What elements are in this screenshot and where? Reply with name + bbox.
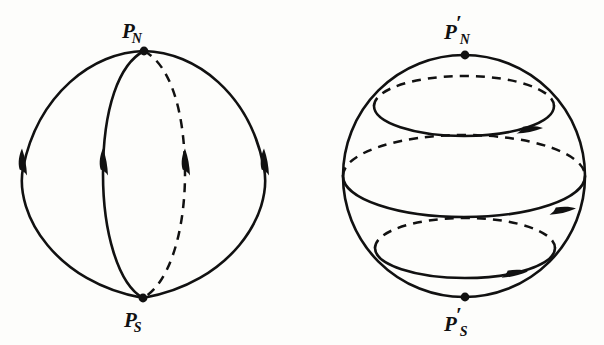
right-sphere-latitude-north-back [374,76,554,106]
figure-container: PN PS P′N P′S [0,0,604,345]
label-south-pole-left: PS [124,301,142,335]
label-north-pole-right-base: P [444,20,457,44]
label-south-pole-right: P′S [444,305,468,339]
left-sphere-inner-meridian-back [143,51,185,298]
right-sphere-group [343,51,585,302]
right-sphere-arrow-equator [550,207,577,215]
label-north-pole-left: PN [122,12,142,46]
label-north-pole-right: P′N [444,13,470,47]
right-sphere-latitude-equator-front [343,176,585,217]
right-sphere-latitude-south-back [375,218,555,248]
left-sphere-outline-right-meridian [143,51,265,298]
label-south-pole-right-subscript: S [460,324,468,339]
label-north-pole-right-subscript: N [460,32,470,47]
right-sphere-latitude-south-front [375,248,555,278]
right-sphere-north-pole-dot [461,51,470,60]
right-sphere-latitude-equator-back [343,135,585,176]
sphere-diagram-svg [0,0,604,345]
label-north-pole-left-subscript: N [132,31,142,46]
left-sphere-group [19,47,269,303]
left-sphere-inner-meridian-front [103,51,144,298]
label-south-pole-left-subscript: S [134,320,142,335]
left-sphere-north-pole-dot [140,47,149,56]
label-south-pole-right-base: P [444,312,457,336]
left-sphere-outline-left-meridian [22,51,144,298]
right-sphere-south-pole-dot [461,293,470,302]
